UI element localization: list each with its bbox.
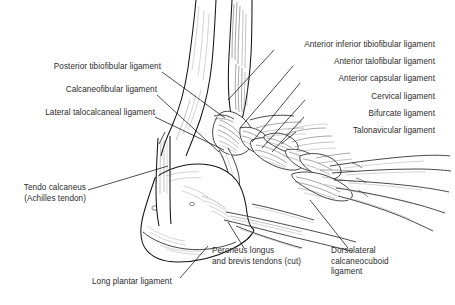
label-anterior-capsular-ligament: Anterior capsular ligament bbox=[180, 74, 435, 85]
label-dorsolateral-calcaneocuboid-ligament: Dorsolateral calcaneocuboid ligament bbox=[331, 246, 389, 278]
label-text: Peroneus longus bbox=[212, 246, 301, 257]
label-text: Anterior capsular ligament bbox=[339, 74, 435, 83]
label-tendo-calcaneus: Tendo calcaneus (Achilles tendon) bbox=[0, 183, 86, 204]
label-text: Talonavicular ligament bbox=[353, 126, 435, 135]
label-subtext: calcaneocuboid bbox=[331, 257, 389, 268]
label-text: Cervical ligament bbox=[371, 92, 435, 101]
label-text: Dorsolateral bbox=[331, 246, 389, 257]
label-lateral-talocalcaneal-ligament: Lateral talocalcaneal ligament bbox=[0, 108, 155, 119]
label-cervical-ligament: Cervical ligament bbox=[180, 92, 435, 103]
label-anterior-inferior-tibiofibular-ligament: Anterior inferior tibiofibular ligament bbox=[180, 40, 435, 51]
label-peroneus-longus-brevis-tendons: Peroneus longus and brevis tendons (cut) bbox=[212, 246, 301, 267]
label-text: Posterior tibiofibular ligament bbox=[54, 62, 161, 71]
label-text: Tendo calcaneus bbox=[0, 183, 86, 194]
label-posterior-tibiofibular-ligament: Posterior tibiofibular ligament bbox=[0, 62, 161, 73]
label-text: Anterior talofibular ligament bbox=[334, 57, 435, 66]
label-text: Anterior inferior tibiofibular ligament bbox=[304, 40, 435, 49]
label-subtext: and brevis tendons (cut) bbox=[212, 257, 301, 268]
label-text: Calcaneofibular ligament bbox=[66, 85, 157, 94]
label-talonavicular-ligament: Talonavicular ligament bbox=[180, 126, 435, 137]
label-subtext: (Achilles tendon) bbox=[0, 194, 86, 205]
label-text: Bifurcate ligament bbox=[369, 109, 435, 118]
label-subtext-2: ligament bbox=[331, 267, 389, 278]
label-long-plantar-ligament: Long plantar ligament bbox=[92, 277, 172, 288]
label-bifurcate-ligament: Bifurcate ligament bbox=[180, 109, 435, 120]
label-anterior-talofibular-ligament: Anterior talofibular ligament bbox=[180, 57, 435, 68]
label-text: Lateral talocalcaneal ligament bbox=[45, 108, 155, 117]
label-text: Long plantar ligament bbox=[92, 277, 172, 286]
label-calcaneofibular-ligament: Calcaneofibular ligament bbox=[0, 85, 157, 96]
